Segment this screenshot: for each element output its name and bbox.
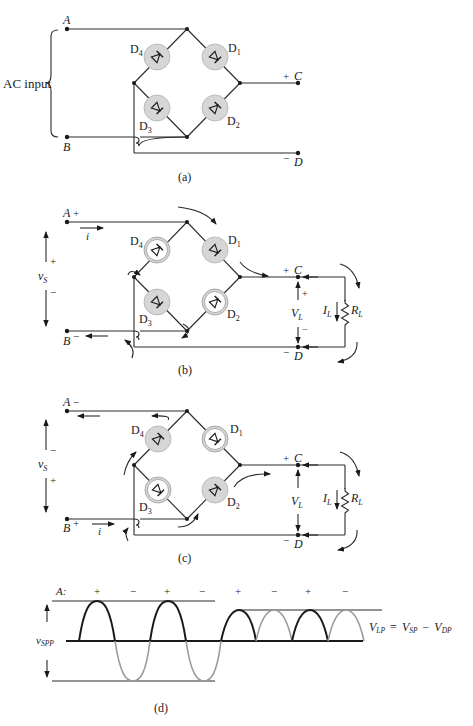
c-c-polarity: + — [283, 452, 289, 464]
c-label-d2: D2 — [227, 495, 240, 511]
diode-d4-off — [144, 237, 170, 263]
rl-label-c: RL — [350, 491, 363, 507]
d-minus: − — [283, 152, 289, 164]
b-terminal-a: A — [62, 206, 71, 220]
b-terminal-c: C — [294, 263, 303, 277]
terminal-c-label: C — [294, 69, 303, 83]
c-terminal-d: D — [293, 537, 303, 551]
panel-d: A: + − + − + − + − vSPP VLP=VSP−VD — [36, 585, 452, 715]
diode-d1-on — [202, 237, 228, 263]
vspp-label: vSPP — [36, 634, 54, 648]
vs-plus-c: + — [50, 474, 56, 486]
label-d1: D1 — [228, 41, 241, 57]
c-terminal-b: B — [63, 521, 71, 535]
caption-c: (c) — [178, 551, 191, 565]
terminal-d-label: D — [293, 155, 303, 169]
rl-label: RL — [350, 303, 363, 319]
c-label-d4: D4 — [131, 423, 144, 439]
svg-text:+: + — [94, 585, 100, 597]
vl-label: VL — [291, 306, 303, 322]
label-d3: D3 — [139, 119, 152, 135]
diode-d4 — [144, 44, 170, 70]
c-terminal-c: C — [294, 451, 303, 465]
half-cycle-signs: + − + − + − + − — [94, 585, 348, 597]
caption-b: (b) — [178, 363, 192, 377]
b-c-polarity: + — [283, 264, 289, 276]
b-a-polarity: + — [73, 207, 79, 219]
bridge-rectifier-figure: AC input A B + C − D D4 — [0, 0, 473, 726]
vs-label: vS — [38, 269, 47, 285]
vl-minus: − — [302, 324, 308, 335]
diode-d2 — [202, 95, 228, 121]
b-b-polarity: − — [73, 330, 79, 342]
il-label: IL — [322, 303, 332, 319]
vs-label-c: vS — [38, 457, 47, 473]
diode-d2-off — [202, 289, 228, 315]
b-terminal-b: B — [63, 334, 71, 348]
il-label-c: IL — [322, 491, 332, 507]
c-a-polarity: − — [73, 396, 79, 408]
diode-d1-off — [202, 426, 228, 452]
svg-text:+: + — [305, 585, 311, 597]
b-label-d1: D1 — [228, 233, 241, 249]
label-d2: D2 — [227, 114, 240, 130]
panel-a: AC input A B + C − D D4 — [3, 13, 303, 184]
b-terminal-d: D — [293, 349, 303, 363]
label-d4: D4 — [130, 42, 143, 58]
c-d-polarity: − — [283, 534, 289, 546]
caption-d: (d) — [154, 701, 168, 715]
vs-minus: − — [50, 286, 56, 298]
svg-text:−: − — [342, 585, 348, 597]
panel-c: − + vS i — [38, 395, 363, 565]
svg-text:+: + — [164, 585, 170, 597]
diode-d2-on — [202, 477, 228, 503]
c-b-polarity: + — [73, 517, 79, 529]
diode-d3-on — [144, 289, 170, 315]
svg-text:+: + — [235, 585, 241, 597]
diode-d1 — [202, 44, 228, 70]
terminal-b-label: B — [63, 140, 71, 154]
vs-plus: + — [50, 255, 56, 267]
svg-text:−: − — [130, 585, 136, 597]
diode-d4-on — [145, 426, 171, 452]
c-plus: + — [283, 70, 289, 82]
vs-minus-c: − — [50, 444, 56, 456]
c-terminal-a: A — [62, 395, 71, 409]
diode-d3-off — [145, 477, 171, 503]
diode-d3 — [144, 95, 170, 121]
caption-a: (a) — [178, 170, 191, 184]
row-label-a: A: — [55, 585, 66, 597]
svg-text:−: − — [199, 585, 205, 597]
b-label-d3: D3 — [139, 312, 152, 328]
b-label-d4: D4 — [130, 234, 143, 250]
current-i-label-c: i — [98, 525, 101, 537]
b-d-polarity: − — [283, 346, 289, 358]
svg-text:−: − — [271, 585, 277, 597]
vl-label-c: VL — [291, 494, 303, 510]
c-label-d1: D1 — [230, 422, 243, 438]
panel-b: + − vS i — [38, 206, 363, 377]
vlp-equation: VLP=VSP−VDP — [369, 620, 452, 635]
current-i-label: i — [86, 230, 89, 242]
terminal-a-label: A — [62, 13, 71, 27]
vl-plus: + — [302, 288, 308, 299]
b-label-d2: D2 — [227, 307, 240, 323]
ac-input-label: AC input — [3, 76, 51, 91]
c-label-d3: D3 — [139, 500, 152, 516]
